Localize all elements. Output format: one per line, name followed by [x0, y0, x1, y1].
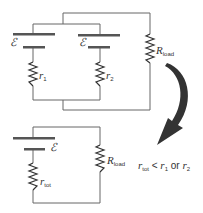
- inner-bottom-wire: [33, 86, 100, 100]
- relation-text: rtot < r1 or r2: [138, 160, 190, 172]
- r1-label: r1: [39, 70, 47, 82]
- rtot-label: rtot: [40, 176, 51, 188]
- emf-label-bottom: ℰ: [50, 142, 57, 153]
- resistor-r1: [29, 62, 37, 86]
- resistor-rtot: [29, 163, 37, 190]
- resistor-rload-top: [146, 34, 154, 63]
- r2-label: r2: [106, 70, 114, 82]
- circuit-diagram: [0, 0, 203, 213]
- battery2-short-plate: [88, 46, 110, 49]
- resistor-r2: [96, 62, 104, 86]
- battery1-short-plate: [23, 46, 45, 49]
- rload-label-top: Rload: [156, 45, 174, 57]
- battery-long-plate: [13, 137, 55, 140]
- emf-label-1: ℰ: [10, 37, 17, 48]
- battery1-long-plate: [13, 33, 55, 36]
- rload-label-bottom: Rload: [107, 155, 125, 167]
- emf-label-2: ℰ: [79, 37, 86, 48]
- top-circuit: [29, 13, 154, 110]
- battery-short-plate: [24, 148, 45, 151]
- transform-arrow-icon: [157, 63, 188, 145]
- resistor-rload-bottom: [96, 145, 104, 172]
